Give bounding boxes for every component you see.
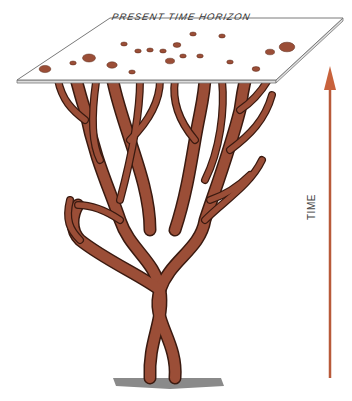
- lineage-endpoint-dot: [160, 49, 167, 53]
- lineage-endpoint-dot: [135, 49, 142, 53]
- lineage-endpoint-dot: [147, 48, 154, 52]
- lineage-endpoint-dot: [197, 54, 204, 58]
- lineage-endpoint-dot: [252, 67, 260, 72]
- lineage-endpoint-dot: [180, 54, 187, 58]
- lineage-endpoint-dot: [279, 42, 295, 52]
- lineage-endpoint-dot: [129, 70, 136, 74]
- lineage-endpoint-dot: [121, 42, 128, 46]
- branching-tree: [58, 76, 272, 378]
- lineage-endpoint-dot: [190, 32, 197, 36]
- time-axis-arrow: [324, 66, 336, 378]
- lineage-endpoint-dot: [265, 49, 274, 55]
- ground-shadow: [113, 378, 224, 389]
- phylogeny-diagram: PRESENT TIME HORIZON TIME: [0, 0, 352, 401]
- lineage-endpoint-dot: [227, 60, 234, 64]
- lineage-endpoint-dot: [83, 54, 96, 62]
- lineage-endpoint-dot: [165, 58, 174, 64]
- tree-illustration: [0, 0, 352, 401]
- lineage-endpoint-dot: [219, 34, 226, 38]
- lineage-endpoint-dot: [70, 61, 77, 65]
- time-axis-label: TIME: [306, 194, 317, 220]
- lineage-endpoint-dot: [173, 43, 181, 48]
- lineage-endpoint-dot: [107, 62, 117, 68]
- present-time-horizon-plane: [17, 18, 343, 83]
- present-time-horizon-label: PRESENT TIME HORIZON: [111, 11, 313, 22]
- lineage-endpoint-dot: [39, 65, 51, 72]
